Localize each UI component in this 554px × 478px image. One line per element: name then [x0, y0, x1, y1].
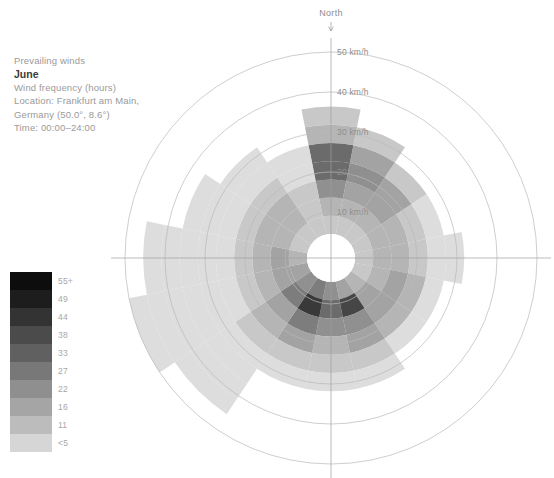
north-label: North — [319, 8, 343, 18]
north-arrow-icon — [329, 22, 334, 31]
ring-label-40: 40 km/h — [337, 87, 369, 97]
wind-rose-page: Prevailing winds June Wind frequency (ho… — [0, 0, 554, 478]
ring-label-20: 20 km/h — [337, 167, 369, 177]
ring-label-10: 10 km/h — [337, 207, 369, 217]
grid-layer — [111, 38, 551, 478]
ring-label-30: 30 km/h — [337, 127, 369, 137]
sectors-layer — [129, 107, 464, 415]
ring-label-50: 50 km/h — [337, 47, 369, 57]
wind-rose-chart: 10 km/h20 km/h30 km/h40 km/h50 km/hNorth — [0, 0, 554, 478]
